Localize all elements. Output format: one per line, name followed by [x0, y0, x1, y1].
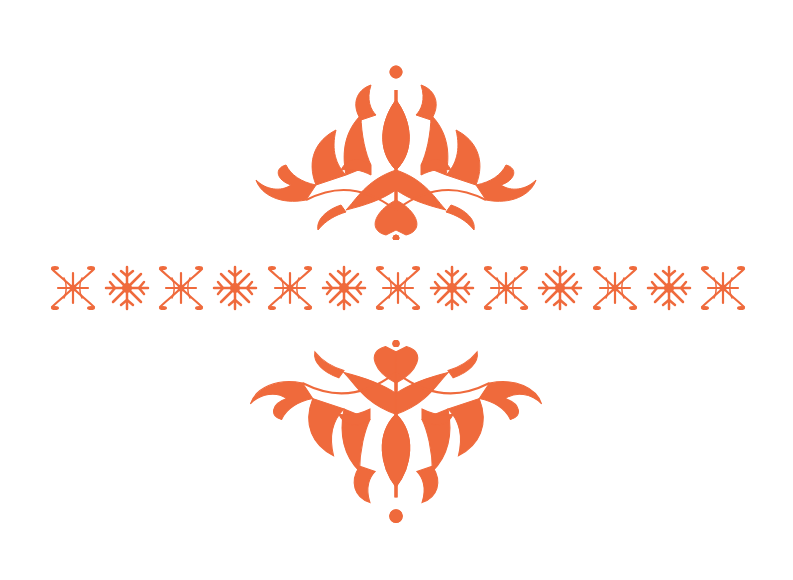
snowflake-border-row — [48, 258, 748, 318]
ornate-snowflake-icon — [373, 263, 423, 313]
simple-snowflake-icon — [535, 263, 585, 313]
simple-snowflake-icon — [644, 263, 694, 313]
bottom-damask-ornament — [240, 340, 552, 530]
ornate-snowflake-icon — [265, 263, 315, 313]
damask-ornament-icon — [240, 60, 552, 240]
ornate-snowflake-icon — [156, 263, 206, 313]
simple-snowflake-icon — [319, 263, 369, 313]
ornate-snowflake-icon — [481, 263, 531, 313]
damask-ornament-icon — [240, 340, 552, 530]
ornate-snowflake-icon — [48, 263, 98, 313]
ornate-snowflake-icon — [590, 263, 640, 313]
ornate-snowflake-icon — [698, 263, 748, 313]
simple-snowflake-icon — [210, 263, 260, 313]
simple-snowflake-icon — [102, 263, 152, 313]
top-damask-ornament — [240, 60, 552, 240]
simple-snowflake-icon — [427, 263, 477, 313]
